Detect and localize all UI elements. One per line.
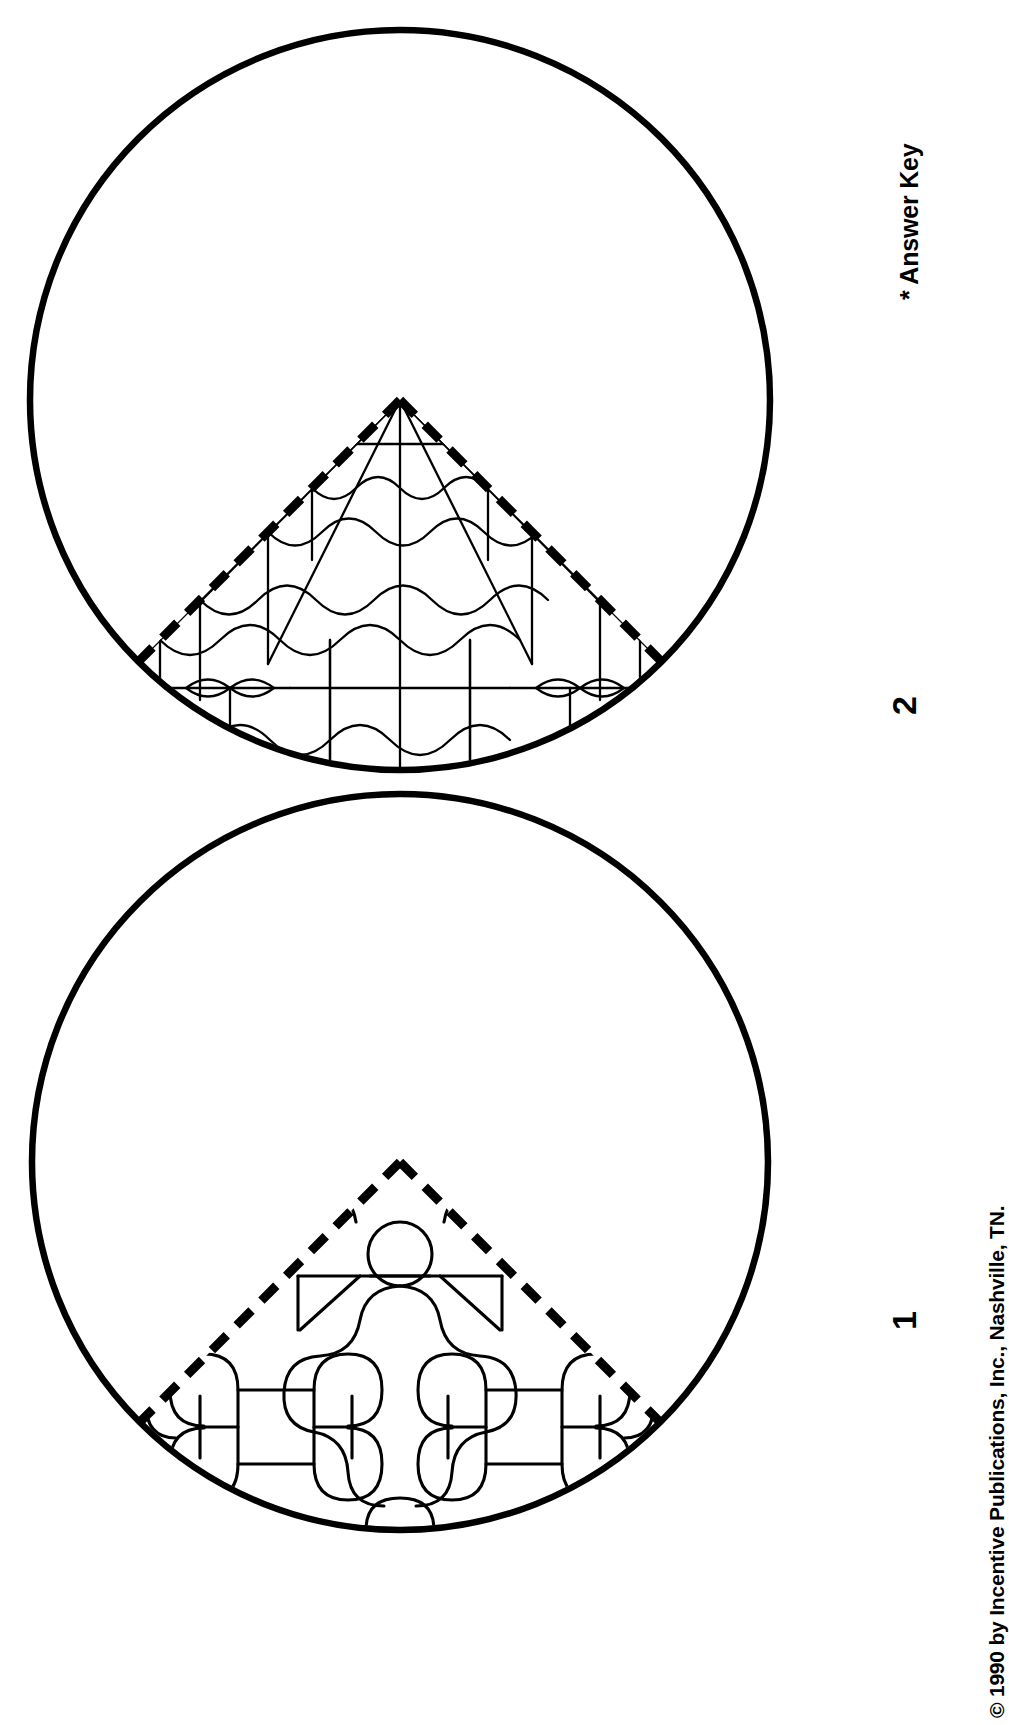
copyright-notice: © 1990 by Incentive Publications, Inc., … bbox=[985, 1206, 1009, 1718]
figure-2-number-label: 2 bbox=[885, 696, 924, 715]
figure-1-circle bbox=[0, 770, 810, 1670]
answer-key-label: * Answer Key bbox=[895, 144, 924, 300]
figure-1-number-label: 1 bbox=[885, 1311, 924, 1330]
circle-outline-1 bbox=[32, 794, 768, 1530]
square-motif-left bbox=[200, 1390, 352, 1464]
figure-2-circle bbox=[0, 0, 810, 830]
square-motif-right bbox=[448, 1390, 600, 1464]
